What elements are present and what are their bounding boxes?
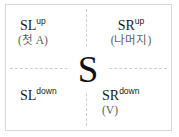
quadrant-bottom-left-term: SLdown: [14, 88, 92, 103]
quadrant-bottom-left: SLdown: [14, 88, 92, 104]
quadrant-bottom-left-base: SL: [20, 88, 36, 103]
quadrant-bottom-right: SRdown (V): [92, 88, 170, 117]
quadrant-bottom-right-note: (V): [92, 104, 170, 117]
quadrant-diagram: S SLup (첫 A) SRup (나머지) SLdown SRdown (V…: [5, 4, 172, 131]
quadrant-bottom-right-term: SRdown: [92, 88, 170, 103]
quadrant-bottom-right-superscript: down: [119, 86, 139, 96]
quadrant-top-left-base: SL: [20, 18, 36, 33]
quadrant-top-left-superscript: up: [36, 16, 45, 26]
quadrant-top-left-term: SLup: [14, 18, 92, 33]
quadrant-top-right-base: SR: [118, 18, 135, 33]
quadrant-bottom-left-superscript: down: [36, 86, 56, 96]
quadrant-bottom-right-base: SR: [102, 88, 119, 103]
quadrant-top-right: SRup (나머지): [92, 18, 170, 47]
quadrant-top-left-note: (첫 A): [14, 34, 92, 47]
quadrant-top-right-note: (나머지): [92, 34, 170, 47]
quadrant-top-left: SLup (첫 A): [14, 18, 92, 47]
center-symbol: S: [68, 47, 108, 91]
quadrant-top-right-term: SRup: [92, 18, 170, 33]
quadrant-top-right-superscript: up: [135, 16, 144, 26]
